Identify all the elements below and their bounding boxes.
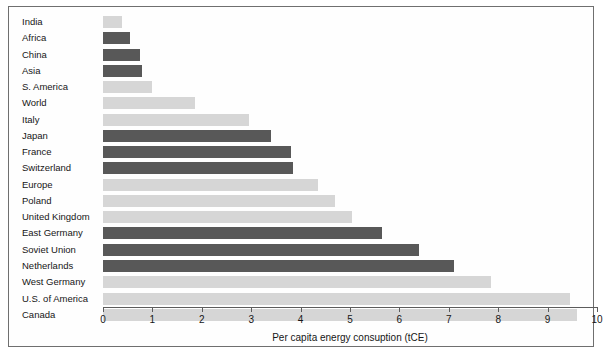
axis-tick <box>548 307 549 312</box>
bar <box>103 16 122 28</box>
bar <box>103 114 249 126</box>
category-label: Asia <box>22 63 100 79</box>
bar-row <box>103 112 597 128</box>
x-axis-title: Per capita energy consuption (tCE) <box>103 332 597 343</box>
bar <box>103 293 570 305</box>
bar <box>103 146 291 158</box>
bar-row <box>103 128 597 144</box>
bar <box>103 260 454 272</box>
axis-tick-label: 10 <box>591 314 602 325</box>
bar-row <box>103 193 597 209</box>
bar-row <box>103 274 597 290</box>
category-label: France <box>22 144 100 160</box>
bar-row <box>103 209 597 225</box>
category-label: Italy <box>22 112 100 128</box>
bar <box>103 81 152 93</box>
category-label: Japan <box>22 128 100 144</box>
bar-row <box>103 225 597 241</box>
bar-chart-figure: IndiaAfricaChinaAsiaS. AmericaWorldItaly… <box>0 0 603 360</box>
category-label: Soviet Union <box>22 242 100 258</box>
axis-tick <box>399 307 400 312</box>
bar <box>103 65 142 77</box>
axis-tick <box>350 307 351 312</box>
axis-tick-label: 2 <box>199 314 205 325</box>
bar-row <box>103 30 597 46</box>
axis-tick-label: 0 <box>100 314 106 325</box>
category-label: Switzerland <box>22 160 100 176</box>
bar <box>103 276 491 288</box>
axis-tick-label: 7 <box>446 314 452 325</box>
bar <box>103 227 382 239</box>
bar <box>103 97 195 109</box>
axis-tick-label: 5 <box>347 314 353 325</box>
bar <box>103 162 293 174</box>
category-label: S. America <box>22 79 100 95</box>
bar-row <box>103 47 597 63</box>
bar <box>103 130 271 142</box>
bar-row <box>103 258 597 274</box>
category-label: Africa <box>22 30 100 46</box>
axis-tick <box>152 307 153 312</box>
bar-row <box>103 63 597 79</box>
category-label: U.S. of America <box>22 291 100 307</box>
axis-tick <box>202 307 203 312</box>
axis-tick-label: 6 <box>397 314 403 325</box>
axis-tick <box>103 307 104 312</box>
category-label: India <box>22 14 100 30</box>
bar <box>103 211 352 223</box>
category-label: West Germany <box>22 274 100 290</box>
bar <box>103 309 577 321</box>
category-label: Netherlands <box>22 258 100 274</box>
category-label: World <box>22 95 100 111</box>
category-label: Canada <box>22 307 100 323</box>
bar <box>103 49 140 61</box>
bar-row <box>103 177 597 193</box>
axis-tick <box>449 307 450 312</box>
bar-row <box>103 160 597 176</box>
category-label: East Germany <box>22 225 100 241</box>
bar-row <box>103 242 597 258</box>
category-axis-labels: IndiaAfricaChinaAsiaS. AmericaWorldItaly… <box>22 14 100 307</box>
category-label: United Kingdom <box>22 209 100 225</box>
bar-row <box>103 291 597 307</box>
axis-tick <box>301 307 302 312</box>
bar-row <box>103 79 597 95</box>
axis-tick <box>498 307 499 312</box>
plot-area <box>103 14 597 307</box>
axis-tick-label: 1 <box>150 314 156 325</box>
bar <box>103 195 335 207</box>
bar-row <box>103 144 597 160</box>
bar <box>103 32 130 44</box>
category-label: China <box>22 47 100 63</box>
axis-tick-label: 3 <box>248 314 254 325</box>
category-label: Poland <box>22 193 100 209</box>
axis-tick-label: 4 <box>298 314 304 325</box>
axis-tick-label: 8 <box>495 314 501 325</box>
axis-tick-label: 9 <box>545 314 551 325</box>
bar <box>103 179 318 191</box>
category-label: Europe <box>22 177 100 193</box>
axis-tick <box>597 307 598 312</box>
bar-row <box>103 14 597 30</box>
bar-row <box>103 95 597 111</box>
bar <box>103 244 419 256</box>
axis-tick <box>251 307 252 312</box>
